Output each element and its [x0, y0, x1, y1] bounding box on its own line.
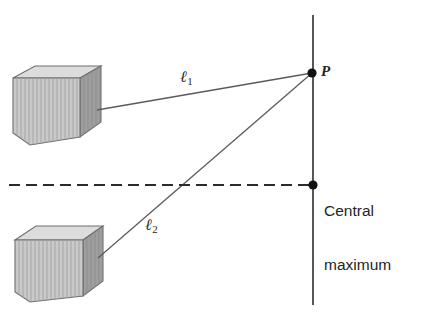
lower-speaker-box	[15, 220, 103, 308]
path-length-2-symbol: ℓ	[145, 216, 152, 233]
interference-diagram: P Central maximum ℓ1 ℓ2	[0, 0, 424, 319]
path-length-1-label: ℓ1	[180, 68, 193, 88]
central-maximum-dot	[308, 180, 317, 189]
path-length-1-symbol: ℓ	[180, 68, 187, 85]
central-maximum-label-line1: Central	[324, 202, 391, 220]
path-length-1-subscript: 1	[187, 75, 193, 87]
upper-speaker-side-face	[80, 66, 101, 137]
central-maximum-label-line2: maximum	[324, 256, 391, 274]
upper-speaker-box	[13, 60, 101, 150]
point-p-dot	[307, 68, 316, 77]
path-length-2-label: ℓ2	[145, 216, 158, 236]
central-maximum-label: Central maximum	[324, 165, 391, 311]
point-p-label: P	[321, 63, 330, 81]
upper-speaker-front-face	[13, 78, 80, 145]
lower-speaker-front-face	[15, 240, 83, 302]
path-line-1	[97, 73, 312, 110]
path-line-2	[98, 73, 312, 258]
path-length-2-subscript: 2	[152, 223, 158, 235]
